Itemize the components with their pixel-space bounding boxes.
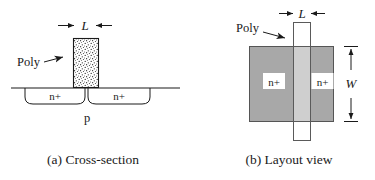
- dimension-L-cross-section: L: [58, 18, 112, 33]
- panel-layout-view: L n+ n+ Poly: [236, 6, 358, 167]
- poly-label: Poly: [17, 55, 41, 69]
- layout-diffusion-label-left: n+: [268, 76, 280, 88]
- mosfet-figure-svg: L Poly n+ n+ p (a) Cross-section: [0, 0, 375, 180]
- figure-container: L Poly n+ n+ p (a) Cross-section: [0, 0, 375, 180]
- poly-label-layout: Poly: [236, 21, 260, 35]
- dimension-W-label: W: [346, 76, 358, 91]
- substrate-label: p: [84, 111, 90, 125]
- layout-diffusion-label-right: n+: [317, 76, 329, 88]
- poly-gate-strip-bottom: [294, 122, 311, 141]
- poly-leader-arrow-layout: [263, 32, 285, 38]
- poly-callout-layout: Poly: [236, 21, 285, 38]
- poly-gate-strip-top: [294, 23, 311, 47]
- dimension-L-layout: L: [279, 6, 325, 21]
- poly-leader-arrow: [44, 57, 63, 62]
- diffusion-label-left: n+: [49, 90, 61, 102]
- caption-cross-section: (a) Cross-section: [47, 152, 139, 167]
- poly-gate-block: [74, 39, 99, 88]
- dimension-L-label: L: [80, 18, 88, 33]
- diffusion-label-right: n+: [113, 90, 125, 102]
- dimension-W: W: [344, 47, 358, 122]
- poly-callout-cross-section: Poly: [17, 55, 63, 69]
- dimension-L-layout-label: L: [297, 6, 305, 21]
- panel-cross-section: L Poly n+ n+ p (a) Cross-section: [11, 18, 180, 167]
- caption-layout-view: (b) Layout view: [246, 152, 333, 167]
